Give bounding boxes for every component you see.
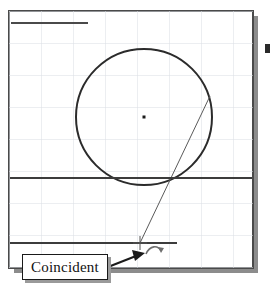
circle-center-point[interactable] bbox=[143, 116, 146, 119]
coincident-tooltip-label: Coincident bbox=[31, 260, 99, 275]
coincident-tooltip: Coincident bbox=[22, 254, 108, 280]
screenshot-root: Coincident bbox=[0, 0, 271, 305]
page-edge-mark bbox=[265, 44, 270, 53]
